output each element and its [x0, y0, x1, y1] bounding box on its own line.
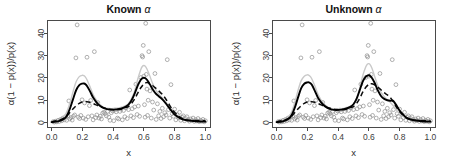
- x-axis-title: x: [351, 147, 356, 158]
- scatter-point: [85, 55, 89, 59]
- chart-svg: Known α0.00.20.40.60.81.0010203040xα(1 −…: [0, 0, 224, 164]
- scatter-point: [366, 44, 370, 48]
- scatter-point: [393, 116, 397, 120]
- panel-title: Unknown α: [325, 3, 382, 15]
- scatter-point: [316, 118, 320, 122]
- chart-panel-known-alpha: Known α0.00.20.40.60.81.0010203040xα(1 −…: [0, 0, 224, 164]
- scatter-point: [372, 50, 376, 54]
- scatter-point: [337, 119, 341, 123]
- scatter-points: [51, 21, 207, 124]
- scatter-point: [399, 118, 403, 122]
- scatter-point: [151, 100, 155, 104]
- scatter-point: [299, 56, 303, 60]
- y-tick-label: 30: [36, 51, 46, 61]
- scatter-point: [300, 23, 304, 27]
- scatter-point: [117, 117, 121, 121]
- x-tick-label: 1.0: [424, 132, 436, 142]
- scatter-point: [154, 118, 158, 122]
- figure-container: Known α0.00.20.40.60.81.0010203040xα(1 −…: [0, 0, 449, 164]
- scatter-point: [390, 58, 394, 62]
- y-axis-title: α(1 − p(x))/p(x): [5, 42, 16, 105]
- scatter-point: [168, 116, 172, 120]
- x-axis: 0.00.20.40.60.81.0: [271, 127, 437, 142]
- scatter-point: [160, 106, 164, 110]
- scatter-point: [369, 21, 373, 25]
- y-tick-label: 40: [261, 28, 271, 38]
- y-tick-label: 0: [261, 120, 271, 125]
- scatter-point: [90, 114, 94, 118]
- scatter-point: [74, 56, 78, 60]
- y-tick-label: 10: [261, 95, 271, 105]
- scatter-point: [147, 50, 151, 54]
- x-tick-label: 0.8: [169, 132, 181, 142]
- plot-frame: [272, 20, 435, 127]
- scatter-point: [152, 108, 156, 112]
- scatter-point: [368, 103, 372, 107]
- scatter-point: [75, 23, 79, 27]
- x-tick-label: 0.2: [76, 132, 88, 142]
- x-axis-title: x: [126, 147, 131, 158]
- scatter-point: [141, 55, 145, 59]
- x-tick-label: 0.6: [138, 132, 150, 142]
- scatter-point: [376, 100, 380, 104]
- scatter-point: [92, 50, 96, 54]
- y-axis: 010203040: [261, 28, 272, 125]
- scatter-point: [178, 110, 182, 114]
- scatter-point: [313, 104, 317, 108]
- scatter-point: [310, 55, 314, 59]
- scatter-point: [112, 119, 116, 123]
- scatter-point: [366, 55, 370, 59]
- scatter-point: [379, 118, 383, 122]
- scatter-point: [149, 116, 153, 120]
- scatter-point: [374, 116, 378, 120]
- scatter-points: [276, 21, 432, 124]
- y-tick-label: 20: [36, 73, 46, 83]
- scatter-point: [91, 118, 95, 122]
- scatter-point: [86, 115, 90, 119]
- scatter-point: [381, 102, 385, 106]
- scatter-point: [373, 89, 377, 93]
- scatter-point: [165, 58, 169, 62]
- scatter-point: [371, 98, 375, 102]
- scatter-point: [353, 88, 357, 92]
- scatter-point: [148, 89, 152, 93]
- y-tick-label: 10: [36, 95, 46, 105]
- chart-panel-unknown-alpha: Unknown α0.00.20.40.60.81.0010203040xα(1…: [225, 0, 449, 164]
- scatter-point: [144, 21, 148, 25]
- scatter-point: [361, 104, 365, 108]
- panel-title: Known α: [107, 3, 152, 15]
- scatter-point: [378, 72, 382, 76]
- x-tick-label: 0.8: [394, 132, 406, 142]
- scatter-point: [377, 108, 381, 112]
- chart-svg: Unknown α0.00.20.40.60.81.0010203040xα(1…: [225, 0, 449, 164]
- y-axis-title: α(1 − p(x))/p(x): [230, 42, 241, 105]
- scatter-point: [317, 50, 321, 54]
- scatter-point: [146, 98, 150, 102]
- x-tick-label: 0.0: [271, 132, 283, 142]
- scatter-point: [156, 102, 160, 106]
- x-tick-label: 1.0: [199, 132, 211, 142]
- plot-frame: [47, 20, 210, 127]
- scatter-point: [311, 115, 315, 119]
- scatter-point: [141, 44, 145, 48]
- scatter-point: [169, 83, 173, 87]
- scatter-point: [394, 83, 398, 87]
- y-tick-label: 40: [36, 28, 46, 38]
- scatter-point: [136, 104, 140, 108]
- scatter-point: [315, 114, 319, 118]
- scatter-point: [143, 103, 147, 107]
- plot-area: [276, 21, 432, 124]
- scatter-point: [128, 88, 132, 92]
- y-tick-label: 30: [261, 51, 271, 61]
- scatter-point: [153, 72, 157, 76]
- scatter-point: [342, 117, 346, 121]
- x-axis: 0.00.20.40.60.81.0: [46, 127, 212, 142]
- y-axis: 010203040: [36, 28, 47, 125]
- x-tick-label: 0.4: [332, 132, 344, 142]
- scatter-point: [88, 104, 92, 108]
- plot-area: [51, 21, 207, 124]
- x-tick-label: 0.6: [363, 132, 375, 142]
- x-tick-label: 0.2: [301, 132, 313, 142]
- scatter-point: [174, 118, 178, 122]
- scatter-point: [385, 106, 389, 110]
